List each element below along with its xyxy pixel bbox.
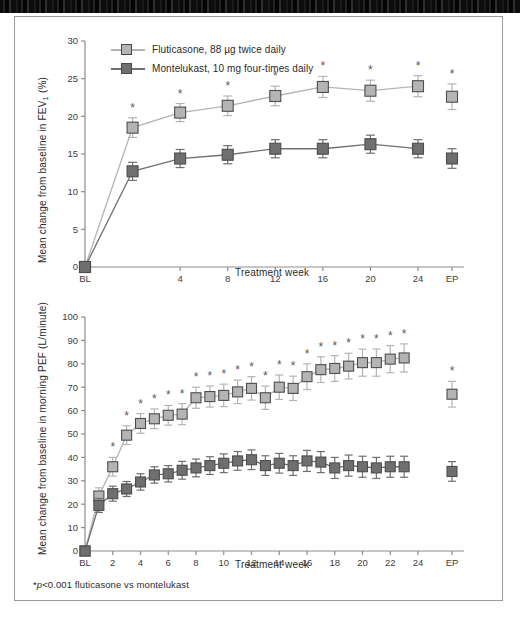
fev1-y-axis-title-text: Mean change from baseline in FEV: [37, 100, 48, 263]
chart-panel-fev1: Mean change from baseline in FEV1 (%) Tr…: [15, 17, 504, 285]
fev1-y-tick-label: 15: [67, 148, 78, 159]
pef-marker: [136, 477, 146, 487]
pef-marker: [177, 409, 187, 419]
pef-x-tick-label: 2: [110, 557, 115, 568]
fev1-y-axis-subscript: 1: [41, 96, 50, 100]
pef-marker: [260, 393, 270, 403]
fev1-marker: [413, 81, 424, 92]
fev1-x-tick-label: 8: [225, 273, 230, 284]
pef-series-line-0: [85, 358, 404, 551]
pef-marker: [205, 461, 215, 471]
pef-marker: [205, 392, 215, 402]
pef-marker: [288, 461, 298, 471]
pef-marker: [163, 469, 173, 479]
pef-y-tick-label: 90: [67, 335, 78, 346]
footnote-rest: <0.001 fluticasone vs montelukast: [42, 579, 189, 590]
pef-significance-star: *: [138, 397, 143, 411]
pef-marker: [94, 491, 104, 501]
pef-x-tick-label: 22: [385, 557, 396, 568]
pef-marker: [316, 365, 326, 375]
pef-significance-star: *: [402, 327, 407, 341]
pef-significance-star: *: [110, 440, 115, 454]
pef-marker: [233, 387, 243, 397]
pef-marker: [358, 462, 368, 472]
pef-significance-star: *: [124, 409, 129, 423]
scan-artifact-strip: [0, 0, 520, 13]
legend-swatch-marker: [121, 44, 132, 55]
fev1-significance-star: *: [416, 59, 421, 73]
pef-marker: [191, 463, 201, 473]
fev1-series-line-0: [85, 86, 418, 267]
pef-significance-star: *: [360, 332, 365, 346]
fev1-marker: [413, 143, 424, 154]
fev1-marker: [222, 100, 233, 111]
pef-marker: [108, 462, 118, 472]
pef-plot-svg: 0102030405060708090100BL2468101214161820…: [15, 293, 504, 578]
fev1-significance-star: *: [368, 63, 373, 77]
pef-significance-star: *: [180, 387, 185, 401]
pef-marker: [274, 458, 284, 468]
pef-marker: [330, 363, 340, 373]
figure-frame: Mean change from baseline in FEV1 (%) Tr…: [14, 16, 503, 601]
pef-x-axis-title: Treatment week: [235, 559, 309, 570]
fev1-significance-star: *: [178, 87, 183, 101]
pef-marker: [80, 546, 90, 556]
pef-marker: [94, 500, 104, 510]
fev1-marker: [80, 262, 91, 273]
pef-x-tick-label: BL: [79, 557, 91, 568]
pef-marker: [247, 383, 257, 393]
pef-marker: [447, 466, 457, 476]
fev1-significance-star: *: [130, 101, 135, 115]
fev1-marker: [270, 143, 281, 154]
fev1-y-tick-label: 0: [73, 261, 78, 272]
fev1-y-tick-label: 25: [67, 73, 78, 84]
pef-marker: [302, 456, 312, 466]
fev1-y-tick-label: 20: [67, 111, 78, 122]
pef-marker: [288, 383, 298, 393]
legend-item-label: Fluticasone, 88 µg twice daily: [152, 44, 286, 55]
legend-swatch-marker: [121, 63, 132, 74]
pef-significance-star: *: [152, 392, 157, 406]
pef-marker: [302, 372, 312, 382]
pef-marker: [149, 414, 159, 424]
fev1-y-tick-label: 5: [73, 224, 78, 235]
pef-marker: [371, 463, 381, 473]
pef-y-tick-label: 80: [67, 358, 78, 369]
pef-marker: [163, 410, 173, 420]
legend-item-fluticasone[interactable]: Fluticasone, 88 µg twice daily: [111, 43, 286, 56]
pef-y-tick-label: 100: [62, 311, 78, 322]
pef-x-tick-label: 8: [193, 557, 198, 568]
pef-significance-star: *: [249, 360, 254, 374]
pef-x-tick-label: EP: [446, 557, 459, 568]
fev1-significance-star: *: [321, 59, 326, 73]
pef-y-tick-label: 30: [67, 475, 78, 486]
legend-swatch-montelukast: [111, 62, 145, 75]
pef-marker: [399, 353, 409, 363]
pef-x-tick-label: 6: [166, 557, 171, 568]
fev1-y-axis-title: Mean change from baseline in FEV1 (%): [37, 77, 50, 263]
fev1-x-tick-label: BL: [79, 273, 91, 284]
pef-marker: [247, 455, 257, 465]
pef-marker: [316, 457, 326, 467]
pef-significance-star: *: [388, 329, 393, 343]
legend-item-label: Montelukast, 10 mg four-times daily: [152, 63, 313, 74]
legend-item-montelukast[interactable]: Montelukast, 10 mg four-times daily: [111, 62, 313, 75]
pef-significance-star: *: [208, 369, 213, 383]
pef-x-tick-label: 20: [357, 557, 368, 568]
pef-marker: [149, 470, 159, 480]
pef-marker: [344, 461, 354, 471]
fev1-plot-svg: 051015202530BL4812162024EP********: [15, 17, 504, 285]
legend-swatch-fluticasone: [111, 43, 145, 56]
pef-y-tick-label: 20: [67, 499, 78, 510]
pef-marker: [80, 546, 90, 556]
pef-marker: [136, 418, 146, 428]
fev1-significance-star: *: [450, 67, 455, 81]
pef-significance-star: *: [346, 336, 351, 350]
pef-marker: [177, 465, 187, 475]
pef-marker: [330, 463, 340, 473]
pef-significance-star: *: [374, 332, 379, 346]
pef-series-line-1: [85, 460, 404, 551]
pef-marker: [344, 361, 354, 371]
pef-marker: [358, 358, 368, 368]
pef-significance-star: *: [277, 358, 282, 372]
